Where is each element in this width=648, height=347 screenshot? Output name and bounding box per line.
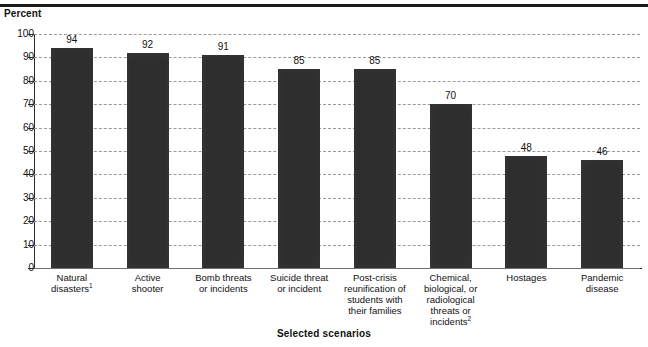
category-footnote-marker: 2 bbox=[468, 315, 472, 322]
bar-value-label: 92 bbox=[111, 39, 185, 50]
y-tick-label-60: 60 bbox=[10, 123, 34, 133]
category-label: Hostages bbox=[485, 272, 569, 283]
bar[interactable] bbox=[202, 55, 244, 268]
category-footnote-marker: 1 bbox=[89, 282, 93, 289]
gridline-70 bbox=[34, 104, 640, 105]
y-tick-label-100: 100 bbox=[10, 29, 34, 39]
y-tick-label-80: 80 bbox=[10, 76, 34, 86]
gridline-30 bbox=[34, 198, 640, 199]
bar-value-label: 94 bbox=[35, 34, 109, 45]
x-axis-title: Selected scenarios bbox=[0, 328, 648, 339]
y-tick-label-30: 30 bbox=[10, 193, 34, 203]
category-label-line: reunification of bbox=[333, 283, 417, 294]
y-tick-label-90: 90 bbox=[10, 52, 34, 62]
gridline-10 bbox=[34, 245, 640, 246]
category-label-line: shooter bbox=[106, 283, 190, 294]
category-label-line: their families bbox=[333, 305, 417, 316]
category-label-line: students with bbox=[333, 294, 417, 305]
bar[interactable] bbox=[430, 104, 472, 268]
bar-value-label: 85 bbox=[262, 55, 336, 66]
category-label-line: Natural bbox=[30, 272, 114, 283]
y-tick-label-70: 70 bbox=[10, 99, 34, 109]
category-label: Pandemicdisease bbox=[560, 272, 644, 294]
category-label-line: incidents2 bbox=[409, 316, 493, 327]
category-label-line: or incident bbox=[257, 283, 341, 294]
bar[interactable] bbox=[581, 160, 623, 268]
bar-value-label: 91 bbox=[186, 41, 260, 52]
category-label-line: disasters1 bbox=[30, 283, 114, 294]
category-label: Activeshooter bbox=[106, 272, 190, 294]
gridline-100 bbox=[34, 34, 640, 35]
y-tick-label-10: 10 bbox=[10, 240, 34, 250]
category-label-line: or incidents bbox=[182, 283, 266, 294]
category-label-line: Post-crisis bbox=[333, 272, 417, 283]
gridline-20 bbox=[34, 221, 640, 222]
category-label: Chemical,biological, orradiologicalthrea… bbox=[409, 272, 493, 327]
gridline-40 bbox=[34, 174, 640, 175]
bar-value-label: 48 bbox=[489, 142, 563, 153]
bar-value-label: 85 bbox=[338, 55, 412, 66]
category-label-line: biological, or bbox=[409, 283, 493, 294]
bar[interactable] bbox=[127, 53, 169, 268]
category-label: Post-crisisreunification ofstudents with… bbox=[333, 272, 417, 316]
bar[interactable] bbox=[505, 156, 547, 268]
category-label-line: Active bbox=[106, 272, 190, 283]
category-label-line: threats or bbox=[409, 305, 493, 316]
y-tick-label-40: 40 bbox=[10, 169, 34, 179]
category-label: Naturaldisasters1 bbox=[30, 272, 114, 294]
y-tick-label-20: 20 bbox=[10, 216, 34, 226]
category-label-line: Chemical, bbox=[409, 272, 493, 283]
plot-area: 9492918585704846 bbox=[34, 34, 640, 268]
bar[interactable] bbox=[51, 48, 93, 268]
bar-value-label: 70 bbox=[414, 90, 488, 101]
category-label-line: radiological bbox=[409, 294, 493, 305]
category-label: Bomb threatsor incidents bbox=[182, 272, 266, 294]
y-tick-label-50: 50 bbox=[10, 146, 34, 156]
top-divider-rule bbox=[0, 4, 648, 7]
category-label-line: Pandemic bbox=[560, 272, 644, 283]
gridline-80 bbox=[34, 81, 640, 82]
category-label-line: Suicide threat bbox=[257, 272, 341, 283]
category-label-line: Hostages bbox=[485, 272, 569, 283]
y-axis-title: Percent bbox=[4, 8, 41, 20]
gridline-0 bbox=[34, 268, 640, 269]
bar-value-label: 46 bbox=[565, 146, 639, 157]
category-label-line: disease bbox=[560, 283, 644, 294]
gridline-60 bbox=[34, 128, 640, 129]
category-label-line: Bomb threats bbox=[182, 272, 266, 283]
bar[interactable] bbox=[278, 69, 320, 268]
category-label: Suicide threator incident bbox=[257, 272, 341, 294]
bar[interactable] bbox=[354, 69, 396, 268]
